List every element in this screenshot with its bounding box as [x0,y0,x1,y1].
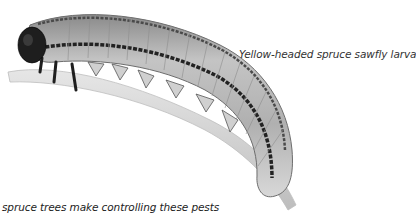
article-text-line: spruce trees make controlling these pest… [2,201,219,213]
figure-caption: Yellow-headed spruce sawfly larva [239,48,416,60]
larva-head [18,27,46,63]
